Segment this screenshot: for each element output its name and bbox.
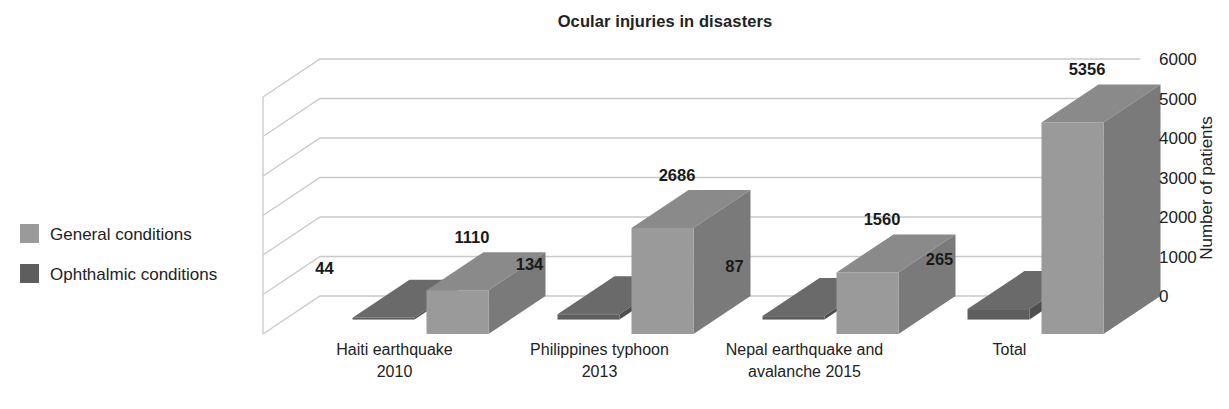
legend-swatch bbox=[20, 224, 39, 243]
bar-front-face bbox=[837, 272, 899, 334]
y-axis-tick-label: 0 bbox=[1159, 287, 1168, 306]
data-label-ophthalmic-3: 265 bbox=[926, 250, 954, 268]
y-axis-tick-label: 2000 bbox=[1159, 208, 1197, 227]
bar-front-face bbox=[558, 314, 620, 319]
x-axis-category-label: Total bbox=[993, 341, 1027, 358]
bar-front-face bbox=[427, 290, 489, 334]
ocular-injuries-3d-bar-chart: Ocular injuries in disasters 44111013426… bbox=[0, 0, 1229, 409]
bar-front-face bbox=[632, 228, 694, 334]
bar-general-3 bbox=[1042, 84, 1161, 334]
data-label-general-3: 5356 bbox=[1069, 60, 1106, 78]
gridline bbox=[263, 138, 1140, 176]
y-axis-tick-labels: 0100020003000400050006000 bbox=[1159, 50, 1197, 306]
y-axis-tick-label: 6000 bbox=[1159, 50, 1197, 69]
bar-front-face bbox=[1042, 122, 1104, 334]
legend-label: General conditions bbox=[50, 225, 192, 244]
legend-swatch bbox=[20, 264, 39, 283]
bars-group: 44111013426868715602655356 bbox=[315, 60, 1160, 334]
chart-legend: General conditionsOphthalmic conditions bbox=[20, 224, 217, 284]
chart-title: Ocular injuries in disasters bbox=[558, 12, 773, 30]
data-label-ophthalmic-0: 44 bbox=[315, 259, 334, 277]
bar-front-face bbox=[968, 309, 1030, 319]
y-axis-tick-label: 5000 bbox=[1159, 90, 1197, 109]
data-label-ophthalmic-1: 134 bbox=[516, 255, 544, 273]
data-label-ophthalmic-2: 87 bbox=[725, 257, 743, 275]
x-axis-category-label: avalanche 2015 bbox=[748, 363, 861, 380]
data-label-general-0: 1110 bbox=[455, 228, 490, 246]
legend-label: Ophthalmic conditions bbox=[50, 265, 217, 284]
x-axis-category-label: 2010 bbox=[377, 363, 413, 380]
bar-side-face bbox=[1104, 84, 1161, 334]
x-axis-category-label: Philippines typhoon bbox=[530, 341, 669, 358]
chart-figure: Ocular injuries in disasters 44111013426… bbox=[0, 0, 1229, 409]
gridline bbox=[263, 59, 1140, 97]
y-axis-title: Number of patients bbox=[1197, 116, 1216, 260]
x-axis-category-label: Nepal earthquake and bbox=[726, 341, 883, 358]
data-label-general-2: 1560 bbox=[864, 210, 901, 228]
data-label-general-1: 2686 bbox=[659, 166, 696, 184]
y-axis-tick-label: 1000 bbox=[1159, 248, 1197, 267]
x-axis-category-labels: Haiti earthquake2010Philippines typhoon2… bbox=[336, 341, 1026, 380]
bar-front-face bbox=[763, 316, 825, 319]
y-axis-tick-label: 3000 bbox=[1159, 169, 1197, 188]
gridline bbox=[263, 99, 1140, 137]
y-axis-tick-label: 4000 bbox=[1159, 129, 1197, 148]
bar-front-face bbox=[353, 318, 415, 320]
x-axis-category-label: 2013 bbox=[582, 363, 618, 380]
x-axis-category-label: Haiti earthquake bbox=[336, 341, 453, 358]
